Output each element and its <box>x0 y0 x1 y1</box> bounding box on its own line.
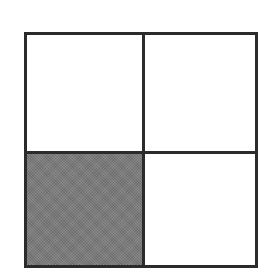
cell-bottom-right <box>145 154 255 265</box>
horizontal-divider <box>27 151 255 154</box>
vertical-divider <box>142 35 145 265</box>
cell-top-left <box>27 35 142 151</box>
cell-bottom-left-shaded <box>27 154 142 265</box>
two-by-two-grid <box>24 32 258 268</box>
cell-top-right <box>145 35 255 151</box>
